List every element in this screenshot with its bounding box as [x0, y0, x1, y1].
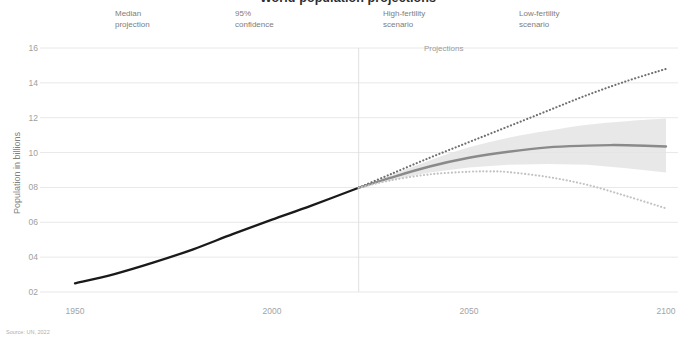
projections-annotation: Projections — [424, 44, 464, 53]
confidence-band — [359, 119, 666, 188]
x-axis-tick-label: 2050 — [460, 306, 479, 316]
source-note: Source: UN, 2022 — [6, 329, 50, 335]
x-axis-tick-label: 2100 — [657, 306, 676, 316]
x-axis-tick-label: 1950 — [66, 306, 85, 316]
population-projection-chart: World population projections Median proj… — [0, 0, 696, 343]
x-axis-tick-label: 2000 — [263, 306, 282, 316]
plot-area — [0, 0, 696, 343]
series-line — [75, 188, 359, 284]
